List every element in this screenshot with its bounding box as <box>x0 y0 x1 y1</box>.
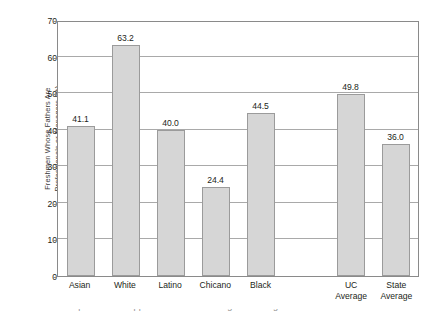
bar-value-label-state-average: 36.0 <box>387 132 404 142</box>
bar-chart-figure: Freshmen Whose Fathers Are Professionals… <box>0 0 436 317</box>
bar-value-label-black: 44.5 <box>252 101 269 111</box>
bar-uc-average[interactable]: 49.8 <box>337 94 365 276</box>
y-axis-title: Freshmen Whose Fathers Are Professionals… <box>0 0 46 277</box>
x-label-asian: Asian <box>57 280 102 301</box>
bar-value-label-latino: 40.0 <box>162 118 179 128</box>
x-label-line: Chicano <box>193 280 238 291</box>
bar-asian[interactable]: 41.1 <box>67 126 95 276</box>
bar-value-label-white: 63.2 <box>117 33 134 43</box>
bar-latino[interactable]: 40.0 <box>157 130 185 276</box>
x-label-spacer <box>283 280 328 301</box>
x-label-state-average: StateAverage <box>374 280 419 301</box>
x-label-latino: Latino <box>148 280 193 301</box>
x-label-line: Latino <box>148 280 193 291</box>
x-label-black: Black <box>238 280 283 301</box>
x-axis-labels: AsianWhiteLatinoChicanoBlack UCAverageSt… <box>57 280 419 301</box>
x-label-chicano: Chicano <box>193 280 238 301</box>
x-label-line: UC <box>329 280 374 291</box>
bar-value-label-chicano: 24.4 <box>207 175 224 185</box>
x-label-white: White <box>102 280 147 301</box>
x-label-line: State <box>374 280 419 291</box>
x-label-line: Average <box>374 291 419 302</box>
x-label-line: Black <box>238 280 283 291</box>
bar-black[interactable]: 44.5 <box>247 113 275 276</box>
bar-slot-black: 44.5 <box>238 22 283 276</box>
y-axis-title-line-1: Freshmen Whose Fathers Are <box>43 86 53 192</box>
bar-slot-chicano: 24.4 <box>193 22 238 276</box>
bar-slot-latino: 40.0 <box>148 22 193 276</box>
caption-sliver: a caption line cropped at the bottom edg… <box>60 309 430 317</box>
y-tick-mark-0 <box>53 277 57 278</box>
x-label-line: Average <box>329 291 374 302</box>
bar-slot-white: 63.2 <box>103 22 148 276</box>
bar-value-label-asian: 41.1 <box>72 114 89 124</box>
plot-area: 41.163.240.024.444.549.836.0 <box>57 21 419 277</box>
x-label-uc-average: UCAverage <box>329 280 374 301</box>
bar-white[interactable]: 63.2 <box>112 45 140 276</box>
bar-state-average[interactable]: 36.0 <box>382 144 410 276</box>
bar-value-label-uc-average: 49.8 <box>342 82 359 92</box>
bar-slot-spacer <box>283 22 328 276</box>
x-label-line: White <box>102 280 147 291</box>
caption-sliver-text: a caption line cropped at the bottom edg… <box>60 309 292 312</box>
bar-slot-state-average: 36.0 <box>373 22 418 276</box>
x-label-line: Asian <box>57 280 102 291</box>
bar-slot-uc-average: 49.8 <box>328 22 373 276</box>
bars-container: 41.163.240.024.444.549.836.0 <box>58 22 418 276</box>
bar-chicano[interactable]: 24.4 <box>202 187 230 276</box>
bar-slot-asian: 41.1 <box>58 22 103 276</box>
